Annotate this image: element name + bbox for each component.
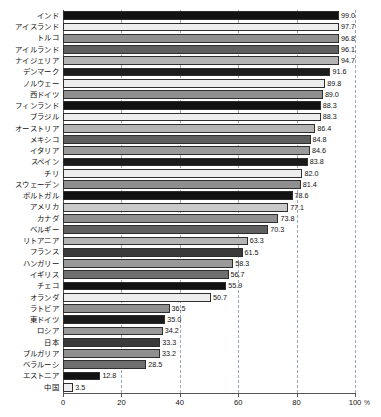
category-label: ベルギー (30, 226, 59, 233)
bar[interactable] (63, 11, 339, 20)
category-label: メキシコ (30, 136, 59, 143)
bar[interactable] (63, 270, 229, 279)
category-label: スウェーデン (15, 181, 59, 188)
bar-row[interactable]: 89.8 (63, 79, 355, 88)
bar-row[interactable]: 89.0 (63, 90, 355, 99)
bar-row[interactable]: 63.3 (63, 237, 355, 246)
bar[interactable] (63, 124, 315, 133)
bar-row[interactable]: 35.0 (63, 315, 355, 324)
bar[interactable] (63, 79, 325, 88)
bar-row[interactable]: 61.5 (63, 248, 355, 257)
bar-row[interactable]: 96.8 (63, 34, 355, 43)
bar-row[interactable]: 3.5 (63, 383, 355, 392)
bar-row[interactable]: 84.8 (63, 135, 355, 144)
bar-value-label: 99.0 (341, 12, 355, 19)
bar-row[interactable]: 56.7 (63, 270, 355, 279)
bar[interactable] (63, 282, 226, 291)
bar[interactable] (63, 383, 73, 392)
bar[interactable] (63, 68, 330, 77)
bar[interactable] (63, 34, 339, 43)
bar-row[interactable]: 94.7 (63, 56, 355, 65)
bar-value-label: 77.1 (290, 204, 304, 211)
bar-rows: 99.097.796.896.194.791.689.889.088.388.3… (63, 10, 355, 393)
category-label: フィンランド (15, 102, 59, 109)
bar-value-label: 50.7 (213, 294, 227, 301)
bar[interactable] (63, 158, 308, 167)
bar-row[interactable]: 96.1 (63, 45, 355, 54)
bar-value-label: 35.0 (167, 316, 181, 323)
bar-row[interactable]: 84.6 (63, 146, 355, 155)
bar[interactable] (63, 315, 165, 324)
bar[interactable] (63, 101, 321, 110)
bar-row[interactable]: 88.3 (63, 101, 355, 110)
bar-row[interactable]: 28.5 (63, 360, 355, 369)
bar-row[interactable]: 12.8 (63, 372, 355, 381)
bar[interactable] (63, 146, 310, 155)
bar[interactable] (63, 203, 288, 212)
bar-row[interactable]: 34.2 (63, 327, 355, 336)
bar-row[interactable]: 97.7 (63, 23, 355, 32)
bar[interactable] (63, 293, 211, 302)
category-label: オランダ (30, 294, 59, 301)
bar-row[interactable]: 99.0 (63, 11, 355, 20)
bar[interactable] (63, 259, 233, 268)
bar-value-label: 89.0 (325, 91, 339, 98)
bar-row[interactable]: 83.8 (63, 158, 355, 167)
bar[interactable] (63, 349, 160, 358)
x-axis-unit-label: % (364, 399, 370, 406)
bar[interactable] (63, 23, 339, 32)
bar-value-label: 81.4 (303, 181, 317, 188)
category-label: アイルランド (15, 46, 59, 53)
bar-value-label: 84.6 (312, 147, 326, 154)
bar-value-label: 82.0 (304, 170, 318, 177)
bar[interactable] (63, 180, 301, 189)
bar-row[interactable]: 86.4 (63, 124, 355, 133)
bar[interactable] (63, 360, 146, 369)
bar-row[interactable]: 36.5 (63, 304, 355, 313)
category-label: ベラルーシ (23, 361, 60, 368)
bar-row[interactable]: 58.3 (63, 259, 355, 268)
bar-row[interactable]: 78.6 (63, 191, 355, 200)
bar[interactable] (63, 113, 321, 122)
category-label: ポルトガル (23, 192, 60, 199)
bar[interactable] (63, 45, 339, 54)
bar[interactable] (63, 56, 339, 65)
x-tick (355, 393, 356, 397)
bar[interactable] (63, 237, 248, 246)
bar[interactable] (63, 191, 293, 200)
bar-value-label: 70.3 (270, 226, 284, 233)
bar[interactable] (63, 304, 170, 313)
bar-value-label: 88.3 (323, 102, 337, 109)
bar-row[interactable]: 70.3 (63, 225, 355, 234)
bar-row[interactable]: 77.1 (63, 203, 355, 212)
bar-value-label: 63.3 (250, 237, 264, 244)
category-label: リトアニア (23, 237, 60, 244)
bar-row[interactable]: 33.3 (63, 338, 355, 347)
bar-row[interactable]: 81.4 (63, 180, 355, 189)
bar[interactable] (63, 135, 311, 144)
x-tick-label: 0 (61, 398, 65, 407)
bar-value-label: 28.5 (148, 361, 162, 368)
category-label: トルコ (37, 34, 59, 41)
bar[interactable] (63, 372, 100, 381)
bar[interactable] (63, 338, 160, 347)
x-tick-label: 20 (117, 398, 125, 407)
bar-value-label: 33.3 (162, 339, 176, 346)
bar[interactable] (63, 225, 268, 234)
bar-value-label: 34.2 (165, 327, 179, 334)
bar[interactable] (63, 214, 278, 223)
bar-value-label: 73.8 (280, 215, 294, 222)
bar[interactable] (63, 90, 323, 99)
bar-row[interactable]: 55.9 (63, 282, 355, 291)
bar[interactable] (63, 327, 163, 336)
bar-row[interactable]: 91.6 (63, 68, 355, 77)
bar-row[interactable]: 33.2 (63, 349, 355, 358)
bar-row[interactable]: 73.8 (63, 214, 355, 223)
bar[interactable] (63, 248, 243, 257)
bar-row[interactable]: 88.3 (63, 113, 355, 122)
bar-chart: 99.097.796.896.194.791.689.889.088.388.3… (0, 0, 381, 417)
bar-row[interactable]: 50.7 (63, 293, 355, 302)
bar-row[interactable]: 82.0 (63, 169, 355, 178)
bar[interactable] (63, 169, 302, 178)
x-tick (121, 393, 122, 397)
